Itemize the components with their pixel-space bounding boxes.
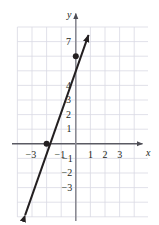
y-tick-label-7: 7	[66, 37, 71, 47]
grid-horizontal-lines	[17, 27, 148, 217]
y-tick-label-4: 4	[66, 81, 71, 91]
y-tick-label-2: 2	[66, 110, 71, 120]
y-tick-label-3: 3	[66, 95, 71, 105]
y-axis-name: y	[67, 10, 71, 20]
y-tick-label-1: 1	[67, 124, 72, 134]
point-x-intercept	[44, 141, 50, 147]
y-tick-label-minus3: −3	[62, 183, 73, 193]
y-tick-label-minus1: −1	[62, 154, 73, 164]
point-y-intercept	[73, 53, 79, 59]
x-tick-label-2: 2	[103, 150, 108, 160]
y-tick-label-minus2: −2	[62, 168, 73, 178]
x-axis-name: x	[146, 148, 150, 158]
x-tick-label-3: 3	[117, 150, 122, 160]
coordinate-plane-svg	[0, 0, 159, 225]
graph-figure: −3 −1 1 2 3 7 4 3 2 1 −1 −2 −3 y x	[0, 0, 159, 225]
x-tick-label-minus3: −3	[26, 150, 37, 160]
x-tick-label-1: 1	[88, 150, 93, 160]
